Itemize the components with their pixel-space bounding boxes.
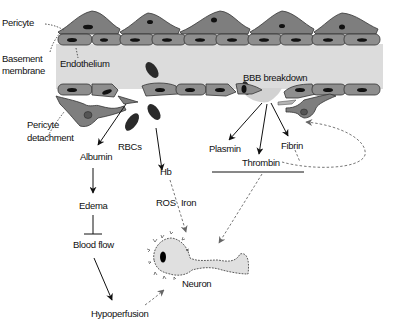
endothelial-nucleus [185, 88, 195, 92]
label-endothelium: Endothelium [60, 58, 110, 69]
endothelial-nucleus [195, 38, 205, 42]
label-pericyte-detachment-1: Pericyte [27, 119, 59, 130]
endothelial-nucleus [357, 88, 367, 92]
label-pericyte: Pericyte [2, 17, 34, 28]
arrow-coag-to-neuron [219, 174, 262, 243]
label-ros: ROS [156, 197, 176, 208]
endothelial-nucleus [323, 88, 333, 92]
arrow-blood-flow-to-hypoperfusion [94, 258, 112, 300]
label-basement: Basement [2, 53, 43, 64]
endothelial-nucleus [242, 85, 247, 93]
endothelial-nucleus [215, 88, 225, 92]
endothelial-nucleus [162, 38, 172, 42]
endothelial-nucleus [100, 38, 108, 42]
top-pericytes [58, 11, 378, 34]
rbc-escaped [122, 111, 142, 133]
arrow-to-thrombin [259, 104, 267, 154]
label-rbcs: RBCs [118, 141, 142, 152]
label-plasmin: Plasmin [209, 143, 241, 154]
detached-pericyte [56, 96, 126, 127]
endothelial-nucleus [259, 38, 269, 42]
label-fibrin: Fibrin [281, 140, 303, 151]
neuron-body [154, 238, 249, 275]
fibrin-connector [295, 150, 300, 162]
neuron [147, 231, 249, 280]
label-iron: Iron [181, 197, 196, 208]
neuron-nucleus [160, 252, 166, 263]
endothelial-nucleus [357, 38, 367, 42]
pericyte-nucleus [211, 18, 217, 23]
pericyte-nucleus [147, 20, 153, 24]
endothelial-cell [92, 84, 118, 97]
endothelial-nucleus [323, 38, 333, 42]
detached-pericyte-left [56, 96, 138, 127]
label-albumin: Albumin [80, 151, 112, 162]
basement-fragment [278, 100, 296, 105]
label-edema: Edema [79, 200, 109, 211]
label-thrombin: Thrombin [242, 157, 280, 168]
endothelial-nucleus [155, 88, 165, 92]
pericyte-cell [314, 13, 378, 34]
label-blood-flow: Blood flow [73, 239, 114, 250]
rbc-escaped [145, 102, 164, 122]
endothelial-nucleus [227, 38, 237, 42]
label-pericyte-detachment-2: detachment [27, 132, 74, 143]
endothelial-nucleus [295, 88, 305, 92]
arrow-to-fibrin [271, 103, 288, 136]
pericyte-leader [45, 24, 64, 30]
endothelial-nucleus [67, 38, 77, 42]
pericyte-nucleus [339, 25, 345, 30]
pericyte-cell [180, 11, 250, 34]
bbb-diagram: Pericyte Basement membrane Endothelium B… [0, 0, 395, 334]
detached-pericyte-nucleus [84, 112, 92, 119]
label-hb: Hb [160, 166, 172, 177]
pericyte-nucleus [83, 25, 93, 30]
arrow-to-plasmin [229, 103, 262, 140]
label-neuron: Neuron [182, 278, 211, 289]
pericyte-cell [58, 11, 120, 34]
endothelial-nucleus [291, 38, 301, 42]
arrow-to-hb [156, 128, 162, 170]
endothelial-nucleus [130, 38, 140, 42]
arrow-hypoperfusion-to-neuron [145, 290, 164, 305]
pericyte-cell [250, 11, 314, 34]
label-membrane: membrane [2, 65, 45, 76]
pericyte-nucleus [279, 24, 285, 28]
endothelial-nucleus [67, 88, 77, 92]
top-endothelium [58, 34, 380, 45]
label-hypoperfusion: Hypoperfusion [91, 308, 148, 319]
detached-pericyte-process [118, 96, 138, 104]
detached-pericyte-nucleus [301, 109, 308, 115]
label-bbb-breakdown: BBB breakdown [243, 72, 307, 83]
